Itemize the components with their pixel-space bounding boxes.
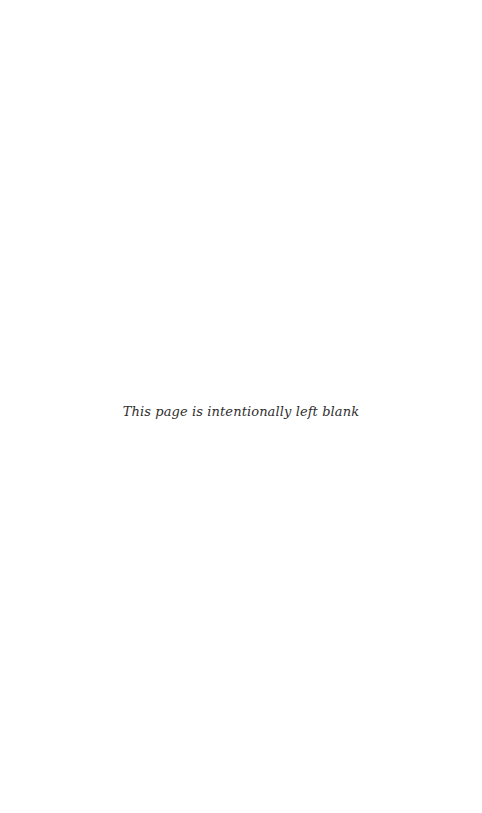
blank-page: This page is intentionally left blank xyxy=(0,0,482,813)
intentionally-blank-notice: This page is intentionally left blank xyxy=(0,402,482,422)
